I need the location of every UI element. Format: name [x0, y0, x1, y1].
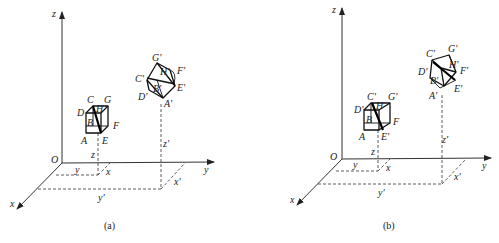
vertex-B: B [366, 114, 372, 125]
caption-b: (b) [383, 220, 395, 232]
x-prime-label: x' [173, 176, 181, 187]
vertex-B: B [87, 117, 93, 128]
y-axis [342, 158, 491, 159]
y-prime-label: y' [377, 187, 385, 198]
vertex-D-prime: D' [137, 91, 148, 102]
vertex-F: F [112, 120, 120, 131]
z-axis-label: z [331, 4, 336, 15]
vertex-G-prime: G' [152, 52, 162, 63]
vertex-F-prime: F' [176, 65, 186, 76]
vertex-F-prime-t: F' [459, 65, 469, 76]
vertex-G-prime: G' [388, 91, 398, 102]
vertex-A-prime-t: A' [428, 90, 438, 101]
x-axis-label: x [289, 194, 295, 205]
origin-label: O [51, 154, 58, 165]
vertex-H: H [375, 100, 384, 111]
y-axis-label: y [481, 160, 487, 171]
vertex-C-prime: C' [135, 73, 145, 84]
vertex-A: A [358, 131, 366, 142]
y-coord-label: y [74, 164, 80, 175]
z-prime-label: z' [162, 138, 170, 149]
axes-b [297, 8, 491, 205]
vertex-E: E [101, 135, 108, 146]
vertex-H-prime-t: H' [448, 59, 459, 70]
vertex-C-prime-t: C' [426, 48, 436, 59]
caption-a: (a) [104, 220, 115, 232]
y-axis-label: y [203, 164, 209, 175]
vertex-A-prime: A' [163, 98, 173, 109]
panel-b: z y x O z y x z' y' x' C' G' D' H [289, 4, 491, 232]
z-prime-label: z' [441, 134, 449, 145]
vertex-D: D [76, 107, 85, 118]
vertex-E-prime-t: E' [453, 83, 463, 94]
axes-a [17, 12, 214, 209]
vertex-C: C [87, 94, 94, 105]
vertex-G-prime-t: G' [448, 43, 458, 54]
x-axis [297, 159, 342, 205]
vertex-H-prime: H' [159, 66, 170, 77]
figure: z y x O z y x z' y' x' C G D [0, 0, 499, 243]
x-axis [17, 163, 62, 209]
z-coord-label: z [370, 146, 375, 157]
vertex-F: F [392, 116, 400, 127]
z-coord-label: z [90, 149, 95, 160]
vertex-B-prime-t: B' [430, 75, 439, 86]
vertex-G: G [104, 94, 111, 105]
x-coord-label: x [105, 166, 111, 177]
panel-a: z y x O z y x z' y' x' C G D [9, 8, 214, 232]
vertex-E-prime: E' [380, 131, 390, 142]
y-axis [62, 162, 214, 163]
y-prime-label: y' [97, 192, 105, 203]
y-coord-label: y [352, 159, 358, 170]
origin-label: O [330, 151, 337, 162]
vertex-H: H [95, 103, 104, 114]
vertex-D-prime-t: D' [417, 66, 428, 77]
z-axis-label: z [51, 8, 56, 19]
vertex-E-prime: E' [176, 82, 186, 93]
x-prime-label: x' [453, 171, 461, 182]
x-axis-label: x [9, 198, 15, 209]
x-coord-label: x [385, 162, 391, 173]
vertex-A: A [80, 135, 88, 146]
vertex-D-prime: D' [353, 104, 364, 115]
vertex-B-prime: B' [153, 83, 162, 94]
